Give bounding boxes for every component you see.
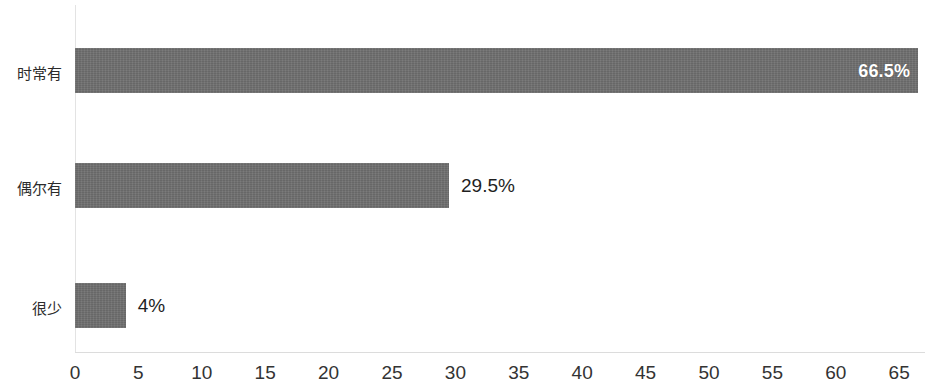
x-tick-label: 50: [679, 362, 739, 384]
x-tick-label: 15: [235, 362, 295, 384]
x-tick-label: 55: [742, 362, 802, 384]
bar-row: 29.5%: [75, 163, 669, 208]
bar-chart: 时常有偶尔有很少 66.5%29.5%4% 051015202530354045…: [0, 0, 925, 389]
bar-row: 4%: [75, 283, 346, 328]
bar-value-label: 29.5%: [461, 175, 515, 197]
category-label-3: 很少: [0, 297, 62, 318]
x-tick-label: 5: [108, 362, 168, 384]
x-tick-label: 60: [806, 362, 866, 384]
x-tick-label: 65: [869, 362, 925, 384]
bar-3: [75, 283, 126, 328]
bar-1: 66.5%: [75, 48, 918, 93]
x-tick-label: 0: [45, 362, 105, 384]
category-label-2: 偶尔有: [0, 177, 62, 198]
x-tick-label: 45: [616, 362, 676, 384]
bar-row: 66.5%: [75, 48, 925, 93]
x-axis-line: [75, 352, 925, 353]
category-label-1: 时常有: [0, 62, 62, 83]
bar-value-label: 4%: [138, 295, 165, 317]
x-tick-label: 40: [552, 362, 612, 384]
bar-2: [75, 163, 449, 208]
x-tick-label: 30: [425, 362, 485, 384]
x-tick-label: 35: [489, 362, 549, 384]
x-tick-label: 10: [172, 362, 232, 384]
x-tick-label: 20: [299, 362, 359, 384]
bar-value-label: 66.5%: [858, 60, 910, 81]
x-tick-label: 25: [362, 362, 422, 384]
